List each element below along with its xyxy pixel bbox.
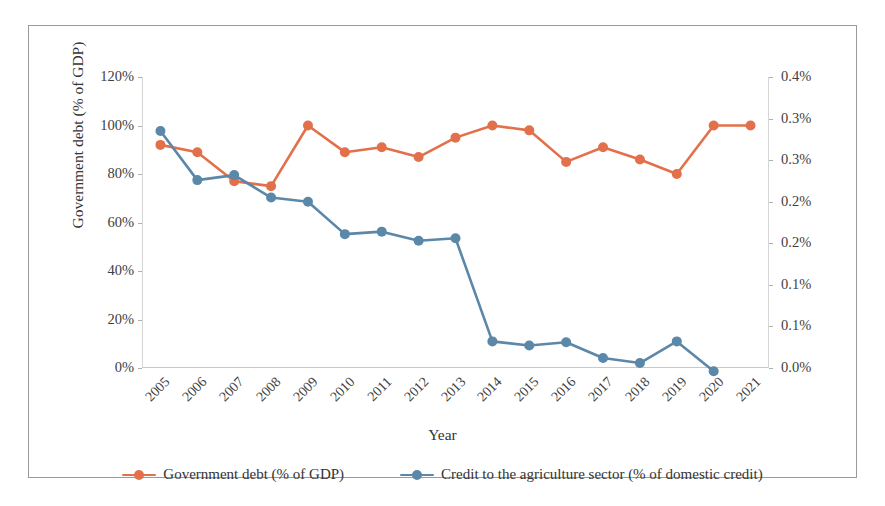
data-point-marker: [709, 366, 719, 376]
data-point-marker: [598, 353, 608, 363]
data-point-marker: [635, 358, 645, 368]
data-point-marker: [414, 236, 424, 246]
right-axis-tick-label: 0.2%: [781, 235, 841, 250]
plot-area: [142, 77, 769, 368]
data-point-marker: [451, 233, 461, 243]
series-layer: [142, 77, 769, 368]
data-point-marker: [672, 336, 682, 346]
right-axis-tick-label: 0.4%: [781, 69, 841, 84]
right-axis-tick-label: 0.3%: [781, 111, 841, 126]
data-point-marker: [524, 125, 534, 135]
right-axis-tick-mark: [769, 202, 773, 203]
left-axis-tick-label: 100%: [64, 118, 134, 133]
data-point-marker: [561, 337, 571, 347]
data-point-marker: [414, 152, 424, 162]
data-point-marker: [155, 140, 165, 150]
data-point-marker: [451, 133, 461, 143]
right-axis-tick-label: 0.1%: [781, 318, 841, 333]
left-axis-tick-label: 80%: [64, 166, 134, 181]
data-point-marker: [192, 175, 202, 185]
data-point-marker: [340, 229, 350, 239]
chart-frame: Government debt (% of GDP) Credit to the…: [28, 25, 857, 478]
x-axis-title: Year: [29, 426, 856, 444]
left-axis-title: Government debt (% of GDP): [69, 0, 87, 280]
right-axis-tick-mark: [769, 285, 773, 286]
right-axis-tick-mark: [769, 77, 773, 78]
data-point-marker: [303, 197, 313, 207]
chart-legend: Government debt (% of GDP)Credit to the …: [29, 466, 856, 483]
data-point-marker: [598, 142, 608, 152]
data-point-marker: [672, 169, 682, 179]
left-axis-tick-label: 60%: [64, 215, 134, 230]
data-point-marker: [487, 121, 497, 131]
right-axis-tick-label: 0.0%: [781, 360, 841, 375]
left-axis-tick-mark: [138, 368, 142, 369]
data-point-marker: [266, 181, 276, 191]
data-point-marker: [229, 170, 239, 180]
data-point-marker: [524, 341, 534, 351]
data-point-marker: [746, 121, 756, 131]
right-axis-tick-mark: [769, 119, 773, 120]
legend-label: Credit to the agriculture sector (% of d…: [441, 466, 763, 483]
data-point-marker: [487, 336, 497, 346]
right-axis-tick-mark: [769, 243, 773, 244]
right-axis-tick-mark: [769, 326, 773, 327]
left-axis-tick-label: 120%: [64, 69, 134, 84]
data-point-marker: [561, 157, 571, 167]
legend-item[interactable]: Government debt (% of GDP): [122, 466, 344, 483]
legend-label: Government debt (% of GDP): [163, 466, 344, 483]
data-point-marker: [155, 126, 165, 136]
data-point-marker: [340, 147, 350, 157]
left-axis-tick-label: 0%: [64, 360, 134, 375]
legend-swatch-icon: [122, 469, 156, 481]
data-point-marker: [635, 154, 645, 164]
legend-swatch-icon: [400, 469, 434, 481]
data-point-marker: [192, 147, 202, 157]
data-point-marker: [377, 142, 387, 152]
data-point-marker: [709, 121, 719, 131]
left-axis-tick-label: 20%: [64, 312, 134, 327]
chart-screenshot: Government debt (% of GDP) Credit to the…: [0, 0, 885, 506]
data-point-marker: [303, 121, 313, 131]
data-point-marker: [377, 227, 387, 237]
right-axis-tick-label: 0.2%: [781, 194, 841, 209]
series-line: [160, 131, 713, 371]
right-axis-tick-mark: [769, 368, 773, 369]
left-axis-tick-label: 40%: [64, 263, 134, 278]
right-axis-tick-mark: [769, 160, 773, 161]
right-axis-tick-label: 0.1%: [781, 277, 841, 292]
right-axis-tick-label: 0.3%: [781, 152, 841, 167]
data-point-marker: [266, 193, 276, 203]
legend-item[interactable]: Credit to the agriculture sector (% of d…: [400, 466, 763, 483]
